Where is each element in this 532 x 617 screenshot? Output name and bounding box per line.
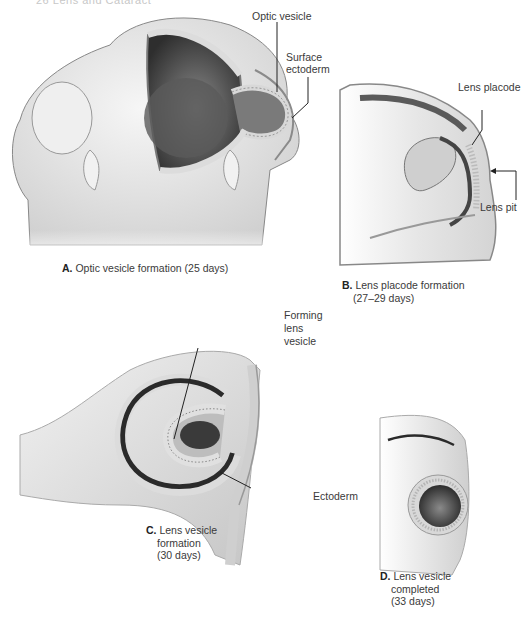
panel-b-lens-placode: Lens placode Lens pit B. Lens placode fo… xyxy=(330,60,532,310)
caption-a-letter: A. xyxy=(62,262,73,274)
leader-line-lens-pit xyxy=(494,171,516,200)
caption-c: C. Lens vesicle formation (30 days) xyxy=(146,524,217,562)
panel-c-lens-vesicle-formation: Forming lens vesicle Ectoderm C. Lens ve… xyxy=(20,305,360,585)
caption-d-line2: completed xyxy=(380,583,451,596)
optic-vesicle-illustration xyxy=(0,0,330,280)
label-ectoderm: Ectoderm xyxy=(313,490,358,502)
caption-a: A. Optic vesicle formation (25 days) xyxy=(62,262,228,275)
panel-d-lens-vesicle-completed: D. Lens vesicle completed (33 days) xyxy=(380,410,532,617)
caption-c-line3: (30 days) xyxy=(146,549,217,562)
label-lens-placode: Lens placode xyxy=(458,81,520,93)
lens-placode-illustration xyxy=(330,60,532,310)
caption-d-letter: D. xyxy=(380,570,391,582)
caption-c-letter: C. xyxy=(146,524,157,536)
label-surface-ectoderm-line1: Surface xyxy=(286,51,322,63)
caption-b-letter: B. xyxy=(342,279,353,291)
label-forming-line3: vesicle xyxy=(284,335,316,347)
caption-b: B. Lens placode formation (27–29 days) xyxy=(342,279,465,304)
caption-a-text: Optic vesicle formation (25 days) xyxy=(75,262,228,274)
panel-a-optic-vesicle: Optic vesicle Surface ectoderm A. Optic … xyxy=(0,0,330,280)
leader-line-surface-ectoderm xyxy=(292,77,308,118)
caption-c-line1: Lens vesicle xyxy=(159,524,217,536)
caption-b-line1: Lens placode formation xyxy=(355,279,464,291)
label-forming-line2: lens xyxy=(284,322,303,334)
label-lens-pit: Lens pit xyxy=(480,201,517,213)
caption-b-line2: (27–29 days) xyxy=(342,292,465,305)
label-optic-vesicle: Optic vesicle xyxy=(252,10,312,22)
caption-d-line1: Lens vesicle xyxy=(393,570,451,582)
arrowhead-icon xyxy=(490,168,496,174)
caption-d-line3: (33 days) xyxy=(380,595,451,608)
caption-d: D. Lens vesicle completed (33 days) xyxy=(380,570,451,608)
caption-c-line2: formation xyxy=(146,537,217,550)
label-surface-ectoderm-line2: ectoderm xyxy=(286,63,330,75)
label-forming-line1: Forming xyxy=(284,309,323,321)
